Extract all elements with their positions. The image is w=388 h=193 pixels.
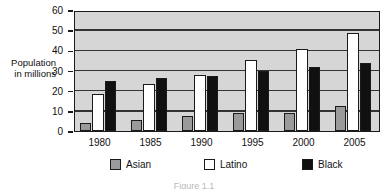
bar-latino-1980	[92, 94, 104, 131]
x-tick-label-1995: 1995	[230, 137, 276, 148]
gridline	[75, 50, 379, 52]
bar-black-2005	[360, 63, 372, 131]
gridline	[75, 29, 379, 31]
gridline	[75, 90, 379, 92]
y-tick-label: 40	[41, 46, 63, 56]
bar-black-1995	[258, 71, 270, 132]
y-tick-mark	[68, 71, 73, 73]
bar-latino-1985	[143, 84, 155, 131]
y-tick-label: 50	[41, 26, 63, 36]
legend-label-latino: Latino	[220, 159, 247, 170]
bar-latino-1995	[245, 60, 257, 131]
bar-latino-2000	[296, 49, 308, 131]
legend-label-black: Black	[318, 159, 342, 170]
bar-asian-1995	[233, 113, 245, 131]
y-tick-mark	[68, 10, 73, 12]
bar-black-1980	[105, 81, 117, 131]
legend-item-latino[interactable]: Latino	[204, 159, 247, 170]
legend-item-black[interactable]: Black	[302, 159, 342, 170]
y-tick-mark	[68, 51, 73, 53]
bar-asian-2005	[335, 106, 347, 131]
legend-label-asian: Asian	[126, 159, 151, 170]
bar-asian-1980	[80, 123, 92, 131]
legend-swatch-asian	[110, 159, 121, 170]
y-tick-label: 20	[41, 87, 63, 97]
bar-black-1985	[156, 78, 168, 131]
legend-swatch-black	[302, 159, 313, 170]
x-tick-label-1990: 1990	[179, 137, 225, 148]
bar-black-2000	[309, 67, 321, 131]
y-tick-label: 10	[41, 107, 63, 117]
legend-item-asian[interactable]: Asian	[110, 159, 151, 170]
y-tick-label: 0	[41, 127, 63, 137]
gridline	[75, 70, 379, 72]
bar-asian-2000	[284, 113, 296, 131]
plot-area	[74, 11, 380, 132]
y-tick-label: 60	[41, 6, 63, 16]
y-tick-label: 30	[41, 67, 63, 77]
bar-asian-1985	[131, 120, 143, 131]
x-tick-label-1980: 1980	[77, 137, 123, 148]
x-tick-label-2005: 2005	[332, 137, 378, 148]
x-tick-label-1985: 1985	[128, 137, 174, 148]
figure-caption: Figure 1.1	[0, 181, 388, 189]
population-bar-chart: Population in millions 0102030405060 198…	[0, 0, 388, 193]
y-tick-mark	[68, 131, 73, 133]
bar-asian-1990	[182, 116, 194, 131]
bar-black-1990	[207, 76, 219, 131]
gridline	[75, 110, 379, 112]
y-tick-mark	[68, 91, 73, 93]
legend-swatch-latino	[204, 159, 215, 170]
legend: AsianLatinoBlack	[74, 159, 380, 175]
y-tick-mark	[68, 111, 73, 113]
x-tick-label-2000: 2000	[281, 137, 327, 148]
y-tick-mark	[68, 30, 73, 32]
bar-latino-2005	[347, 33, 359, 131]
bar-latino-1990	[194, 75, 206, 131]
